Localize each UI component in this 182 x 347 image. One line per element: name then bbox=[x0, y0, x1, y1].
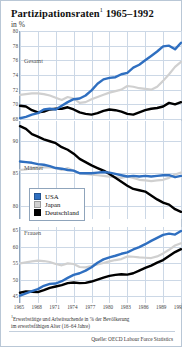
panel-stack: 80787674727068Gesamt908580Männer65605550… bbox=[1, 31, 182, 303]
y-axis-tick-label: 85 bbox=[13, 170, 18, 176]
legend-label: Deutschland bbox=[45, 209, 79, 216]
footnote-line-2: im erwerbsfähigen Alter (16–64 Jahre) bbox=[11, 323, 90, 329]
legend-label: USA bbox=[45, 193, 59, 200]
gridline-horizontal bbox=[20, 119, 181, 120]
y-axis-tick-label: 50 bbox=[13, 277, 18, 283]
x-axis-tick-label: 1980 bbox=[103, 304, 113, 310]
legend-item: Japan bbox=[34, 201, 79, 208]
x-axis-tick-label: 1989 bbox=[156, 304, 166, 310]
title-year-range: 1965–1992 bbox=[103, 8, 154, 19]
footnote: 1Erwerbstätige und Arbeitsuchende in % d… bbox=[11, 314, 175, 331]
y-axis-tick-label: 80 bbox=[13, 203, 18, 209]
y-axis-tick-label: 90 bbox=[13, 138, 18, 144]
y-axis-tick-label: 70 bbox=[13, 101, 18, 107]
x-axis-tick-label: 1971 bbox=[49, 304, 59, 310]
footnote-line-1: Erwerbstätige und Arbeitsuchende in % de… bbox=[13, 316, 129, 322]
panel-gesamt: 80787674727068Gesamt bbox=[1, 31, 182, 119]
x-axis-tick-label: 1986 bbox=[138, 304, 148, 310]
legend-swatch-icon bbox=[34, 209, 41, 216]
gridline-vertical bbox=[181, 227, 182, 303]
x-axis-tick-label: 1968 bbox=[32, 304, 42, 310]
panel-frauen: 6560555045Frauen bbox=[1, 227, 182, 303]
source-text: Quelle: OECD Labour Force Statistics bbox=[91, 336, 173, 342]
legend-item: USA bbox=[34, 193, 79, 200]
y-axis-tick-label: 65 bbox=[13, 227, 18, 233]
y-axis-tick-label: 60 bbox=[13, 244, 18, 250]
source-divider bbox=[9, 331, 175, 332]
panel-label: Männer bbox=[24, 164, 43, 171]
legend-swatch-icon bbox=[34, 201, 41, 208]
chart-legend: USAJapanDeutschland bbox=[29, 188, 85, 221]
legend-label: Japan bbox=[45, 201, 60, 208]
series-layer bbox=[20, 31, 181, 119]
y-axis-tick-label: 76 bbox=[13, 57, 18, 63]
series-layer bbox=[20, 227, 181, 303]
y-axis-tick-label: 80 bbox=[13, 28, 18, 34]
y-axis-tick-label: 55 bbox=[13, 260, 18, 266]
panel-label: Frauen bbox=[24, 229, 41, 236]
gridline-vertical bbox=[181, 121, 182, 219]
legend-swatch-icon bbox=[34, 193, 41, 200]
legend-item: Deutschland bbox=[34, 209, 79, 216]
x-axis-tick-label: 1977 bbox=[85, 304, 95, 310]
chart-header: Partizipationsraten1 1965–1992 in % bbox=[1, 1, 181, 31]
x-axis-tick-label: 1974 bbox=[67, 304, 77, 310]
y-axis-tick-label: 72 bbox=[13, 87, 18, 93]
plot-area: 6560555045Frauen bbox=[19, 227, 181, 303]
y-axis-tick-label: 78 bbox=[13, 43, 18, 49]
y-axis-tick-label: 74 bbox=[13, 72, 18, 78]
y-axis-tick-label: 45 bbox=[13, 293, 18, 299]
panel-label: Gesamt bbox=[24, 57, 43, 64]
chart-figure: Partizipationsraten1 1965–1992 in % 8078… bbox=[0, 0, 182, 347]
chart-subtitle: in % bbox=[11, 20, 181, 29]
page-title: Partizipationsraten1 1965–1992 bbox=[11, 7, 181, 19]
title-text: Partizipationsraten bbox=[11, 8, 100, 19]
x-axis-tick-label: 1992 bbox=[174, 304, 182, 310]
plot-area: 80787674727068Gesamt bbox=[19, 31, 181, 119]
x-axis-tick-label: 1983 bbox=[120, 304, 130, 310]
x-axis-tick-label: 1965 bbox=[14, 304, 24, 310]
